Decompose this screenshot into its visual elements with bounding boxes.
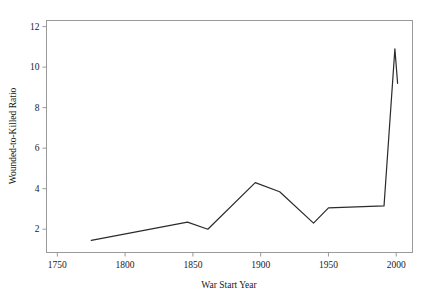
y-tick-label: 4 [35, 184, 40, 194]
chart-figure: 24681012 175018001850190019502000 War St… [0, 0, 426, 300]
y-tick-label: 12 [30, 22, 40, 32]
x-tick-label: 2000 [387, 260, 406, 270]
y-tick-label: 8 [35, 103, 40, 113]
y-tick-label: 2 [35, 224, 40, 234]
plot-border [47, 21, 413, 253]
plot-frame [47, 21, 413, 253]
x-tick-label: 1750 [48, 260, 67, 270]
x-tick-label: 1900 [251, 260, 270, 270]
x-tick-label: 1950 [319, 260, 338, 270]
data-series-line [91, 49, 397, 240]
y-tick-label: 6 [35, 143, 40, 153]
x-axis-title: War Start Year [201, 280, 257, 290]
x-tick-label: 1850 [183, 260, 202, 270]
y-axis-ticks: 24681012 [30, 22, 47, 235]
y-tick-label: 10 [30, 62, 40, 72]
line-chart: 24681012 175018001850190019502000 War St… [0, 0, 426, 300]
x-tick-label: 1800 [116, 260, 135, 270]
y-axis-title: Wounded-to-Killed Ratio [8, 87, 18, 184]
x-axis-ticks: 175018001850190019502000 [48, 253, 406, 270]
